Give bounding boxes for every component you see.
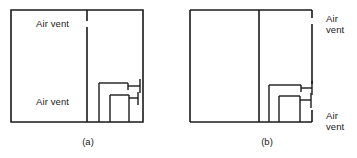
diagram-a-drawing [0,0,178,158]
panel-caption-b: (b) [247,136,287,147]
air-vent-label-b-top: Air vent [326,13,344,35]
air-vent-label-a-bottom: Air vent [36,96,69,107]
figure-root: Air vent Air vent (a) [0,0,357,158]
room-outline-a [11,10,143,122]
air-vent-label-a-top: Air vent [36,18,69,29]
air-vent-label-b-bottom: Air vent [326,110,344,132]
panel-caption-a: (a) [68,136,108,147]
diagram-panel-a: Air vent Air vent (a) [0,0,178,158]
diagram-panel-b: Air vent Air vent (b) [179,0,357,158]
